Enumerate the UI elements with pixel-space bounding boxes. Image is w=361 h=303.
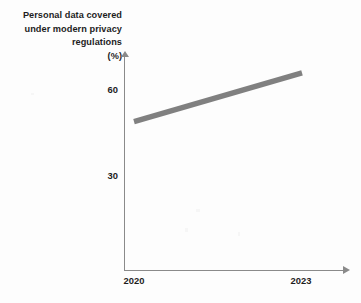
data-series-line xyxy=(134,73,302,122)
series-layer xyxy=(0,0,361,303)
chart-figure: Personal data covered under modern priva… xyxy=(0,0,361,303)
